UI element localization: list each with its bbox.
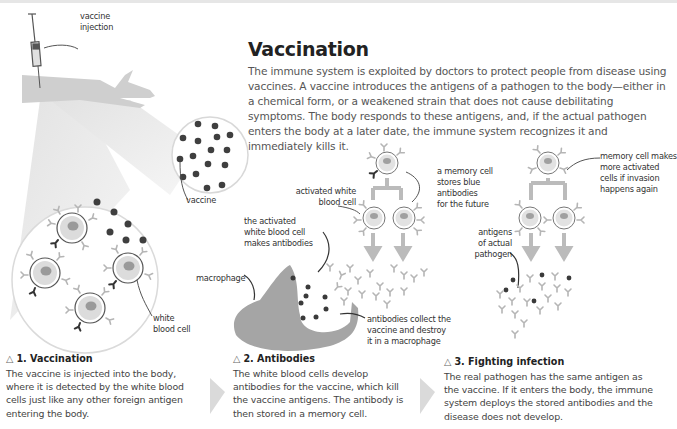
label-white-blood-cell: white blood cell (153, 313, 190, 335)
step-2-text: The white blood cells develop antibodies… (233, 367, 413, 420)
step-chevron-2 (420, 378, 435, 414)
memory-cell-makes-pointer (567, 158, 600, 170)
label-activated-white-blood-cell: activated white blood cell (286, 186, 356, 208)
step-1-text: The vaccine is injected into the body, w… (6, 367, 201, 420)
triangle-icon: △ (6, 353, 13, 364)
label-macrophage: macrophage (196, 273, 245, 284)
vaccine-injection-pointer (44, 45, 78, 49)
memory-cell-pointer (406, 172, 420, 202)
label-antigens-actual-pathogen: antigens of actual pathogen (470, 227, 512, 260)
label-vaccine-injection: vaccine injection (80, 11, 113, 33)
step-chevron-1 (210, 378, 225, 414)
label-memory-cell-stores: a memory cell stores blue antibodies for… (437, 166, 493, 210)
step-3-title: △3. Fighting infection (444, 356, 564, 367)
step-1-title: △1. Vaccination (6, 353, 93, 364)
makes-antibodies-pointer (318, 232, 329, 272)
label-memory-cell-makes: memory cell makes more activated cells i… (600, 151, 677, 195)
page-title: Vaccination (248, 38, 369, 60)
label-vaccine: vaccine (186, 195, 216, 206)
label-antibodies-collect: antibodies collect the vaccine and destr… (367, 314, 451, 347)
vaccine-zoom-circle (172, 117, 248, 193)
memory-cell-tree (515, 146, 584, 258)
antibodies-cloud (291, 264, 428, 321)
triangle-icon: △ (444, 356, 451, 367)
pathogen-antibodies (497, 273, 571, 338)
step-3-text: The real pathogen has the same antigen a… (444, 370, 654, 423)
step-2-title: △2. Antibodies (233, 353, 315, 364)
intro-paragraph: The immune system is exploited by doctor… (248, 64, 673, 154)
macrophage-pointer (244, 275, 255, 300)
triangle-icon: △ (233, 353, 240, 364)
label-activated-makes-antibodies: the activated white blood cell makes ant… (244, 216, 313, 249)
